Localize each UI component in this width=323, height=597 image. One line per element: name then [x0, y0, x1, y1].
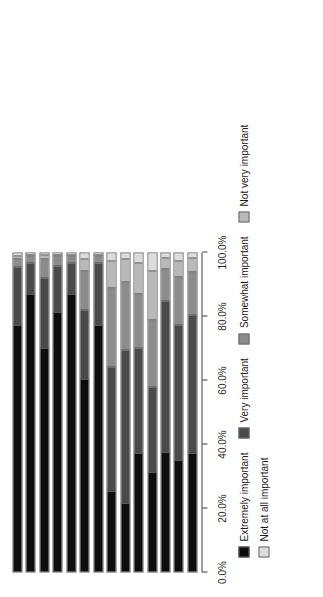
bar-segment — [13, 259, 21, 267]
legend-item: Very important — [238, 358, 249, 438]
axis-tick — [202, 379, 207, 380]
legend-item: Somewhat important — [238, 236, 249, 344]
axis-tick — [202, 443, 207, 444]
axis-tick — [202, 251, 207, 252]
bar-segment — [26, 256, 34, 262]
bar-segment — [161, 253, 169, 258]
legend-item: Extremely important — [238, 452, 249, 557]
axis-tick-label: 100.0% — [216, 235, 227, 269]
bar-segment — [188, 258, 196, 272]
legend-label: Very important — [238, 358, 249, 422]
bar-segment — [188, 453, 196, 571]
bar-segment — [174, 253, 182, 261]
bar-segment — [40, 348, 48, 571]
bar-segment — [80, 271, 88, 311]
bar-segment — [121, 259, 129, 281]
bar-segment — [134, 294, 142, 348]
bar-segment — [40, 253, 48, 255]
bar-segment — [13, 267, 21, 324]
bar-row — [160, 252, 170, 572]
bar-segment — [121, 503, 129, 571]
axis-tick-label: 40.0% — [216, 430, 227, 458]
bar-segment — [148, 253, 156, 270]
bar-segment — [80, 310, 88, 378]
bar-segment — [134, 263, 142, 295]
bar-segment — [134, 253, 142, 263]
bar-segment — [53, 256, 61, 266]
plot-area: 0.0%20.0%40.0%60.0%80.0%100.0% — [12, 252, 197, 572]
bar-segment — [161, 301, 169, 452]
bar-segment — [67, 294, 75, 571]
bar-segment — [161, 269, 169, 301]
bar-segment — [121, 253, 129, 259]
chart-screenshot: Repairing harmVictim participationVictim… — [0, 0, 323, 597]
bar-segment — [107, 253, 115, 261]
bar-segment — [121, 282, 129, 350]
bar-group — [12, 252, 197, 572]
bar-segment — [148, 320, 156, 387]
bar-segment — [107, 367, 115, 491]
value-axis-line — [201, 252, 202, 572]
legend-swatch-icon — [238, 333, 249, 344]
legend-label: Not at all important — [258, 457, 269, 541]
bar-segment — [53, 312, 61, 571]
bar-row — [187, 252, 197, 572]
bar-row — [25, 252, 35, 572]
bar-segment — [188, 253, 196, 258]
axis-tick — [202, 315, 207, 316]
bar-segment — [80, 253, 88, 259]
bar-segment — [40, 278, 48, 348]
bar-segment — [94, 253, 102, 255]
bar-segment — [107, 288, 115, 368]
bar-segment — [134, 453, 142, 571]
bar-row — [39, 252, 49, 572]
bar-segment — [161, 258, 169, 269]
bar-segment — [148, 271, 156, 320]
bar-segment — [40, 255, 48, 260]
bar-segment — [188, 272, 196, 315]
bar-segment — [53, 266, 61, 312]
bar-segment — [94, 325, 102, 571]
bar-segment — [188, 315, 196, 453]
bar-segment — [67, 263, 75, 295]
bar-segment — [174, 277, 182, 325]
bar-segment — [174, 261, 182, 277]
bar-segment — [148, 472, 156, 571]
bar-row — [147, 252, 157, 572]
bar-segment — [161, 452, 169, 571]
bar-segment — [94, 256, 102, 262]
bar-segment — [80, 259, 88, 270]
bar-segment — [134, 348, 142, 453]
axis-tick-label: 0.0% — [216, 561, 227, 584]
bar-row — [120, 252, 130, 572]
bar-row — [106, 252, 116, 572]
bar-row — [12, 252, 22, 572]
legend-swatch-icon — [238, 427, 249, 438]
legend-label: Not very important — [238, 124, 249, 206]
bar-row — [173, 252, 183, 572]
legend-label: Somewhat important — [238, 236, 249, 328]
bar-segment — [40, 259, 48, 278]
axis-tick-label: 80.0% — [216, 302, 227, 330]
legend-swatch-icon — [238, 546, 249, 557]
legend-label: Extremely important — [238, 452, 249, 541]
bar-segment — [26, 253, 34, 255]
bar-segment — [148, 387, 156, 473]
bar-segment — [67, 256, 75, 262]
bar-row — [66, 252, 76, 572]
stacked-bar-figure: Repairing harmVictim participationVictim… — [0, 0, 323, 597]
axis-tick-label: 20.0% — [216, 494, 227, 522]
axis-tick — [202, 507, 207, 508]
legend-swatch-icon — [258, 546, 269, 557]
bar-row — [133, 252, 143, 572]
bar-row — [93, 252, 103, 572]
bar-segment — [53, 253, 61, 255]
legend-swatch-icon — [238, 211, 249, 222]
bar-segment — [107, 261, 115, 288]
legend-item: Not very important — [238, 124, 249, 222]
bar-segment — [26, 263, 34, 295]
legend-item: Not at all important — [258, 457, 269, 557]
bar-segment — [107, 492, 115, 572]
bar-segment — [174, 325, 182, 460]
bar-segment — [13, 253, 21, 256]
